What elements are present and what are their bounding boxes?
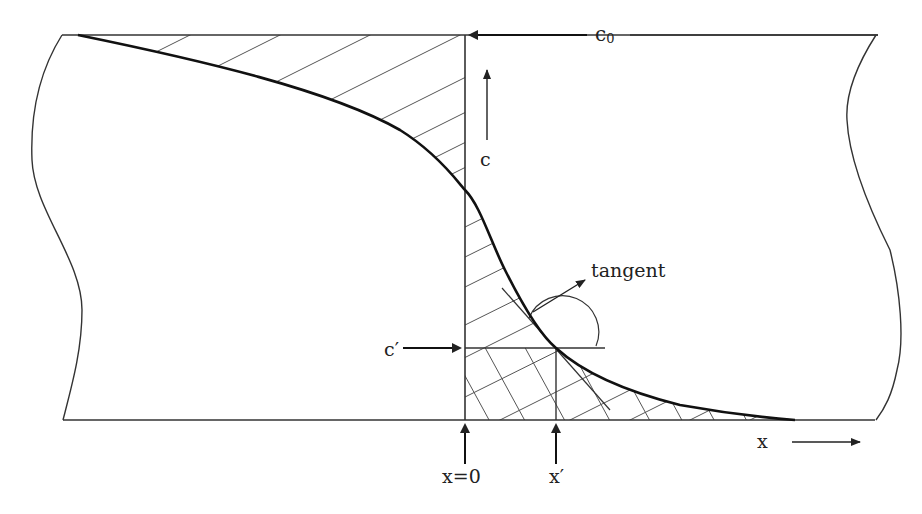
tangent-angle-arc <box>529 296 599 346</box>
left-break-edge <box>32 35 82 420</box>
concentration-curve <box>78 35 795 420</box>
diffusion-diagram: c0 c c′ tangent x=0 x′ x <box>0 0 922 514</box>
x-axis-label: x <box>757 430 768 452</box>
x-zero-label: x=0 <box>442 465 481 487</box>
c-axis-label: c <box>480 148 491 170</box>
c-prime-label: c′ <box>384 338 399 360</box>
hatch-low-right <box>440 290 900 450</box>
tangent-label: tangent <box>591 259 666 281</box>
c0-label: c0 <box>595 22 614 46</box>
tangent-pointer-arrow <box>533 280 585 312</box>
x-prime-label: x′ <box>549 465 564 487</box>
hatch-top-left <box>100 10 520 215</box>
right-break-edge <box>847 35 901 420</box>
